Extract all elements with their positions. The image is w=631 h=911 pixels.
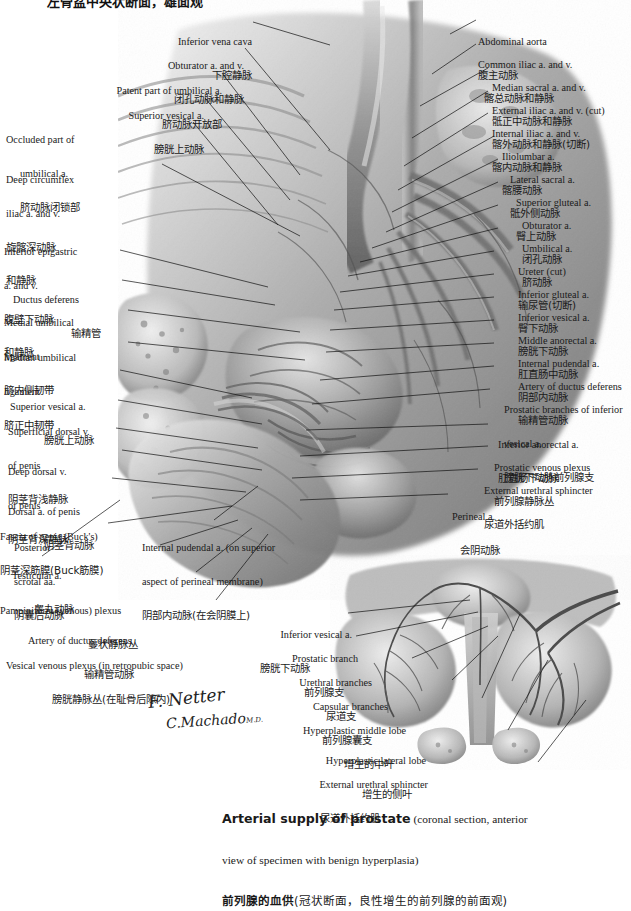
signature-machado-credential: M.D. [246,716,264,725]
label-perineal-a: Perineal a. 会阴动脉 [452,489,500,579]
caption-title-cn: 前列腺的血供 [222,894,294,908]
plate-caption: Arterial supply of prostate (coronal sec… [222,785,631,911]
caption-sub-en-1: (coronal section, anterior [411,813,528,825]
caption-sub-en-2: view of specimen with benign hyperplasia… [222,854,631,868]
caption-sub-cn: (冠状断面，良性增生的前列腺的前面观) [294,894,507,908]
caption-title-en: Arterial supply of prostate [222,811,411,826]
label-posterior-scrotal-aa: Posterior scrotal aa. 阴囊后动脉 [14,520,110,643]
label-external-urethral-sphincter-main: External urethral sphincter 尿道外括约肌 [484,463,593,553]
